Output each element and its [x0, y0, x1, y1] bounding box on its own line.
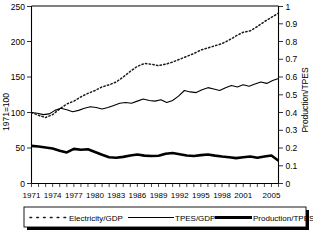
- right-axis-ticks: [279, 7, 284, 184]
- xtick-label: 2001: [234, 191, 252, 200]
- y2tick-label: 1: [286, 2, 291, 12]
- legend-label-tpes-gdp: TPES/GDP: [175, 214, 215, 223]
- xtick-label: 1971: [23, 191, 41, 200]
- line-chart-figure: 0 50 100 150 200 250 1971=100 0 0.1: [0, 0, 313, 233]
- legend-label-electricity-gdp: Electricity/GDP: [69, 214, 123, 223]
- xtick-label: 1992: [171, 191, 189, 200]
- y2-axis-title: Production/TPES: [300, 67, 310, 133]
- y2tick-label: 0.5: [286, 90, 298, 100]
- y2tick-label: 0.3: [286, 125, 298, 135]
- y-axis-title: 1971=100: [1, 93, 11, 131]
- left-axis-ticks: [27, 7, 32, 184]
- right-axis-tick-labels: 0 0.1 0.2 0.3 0.4 0.5 0.6 0.7 0.8 0.9 1: [286, 2, 298, 189]
- y2tick-label: 0.2: [286, 143, 298, 153]
- y2tick-label: 0.1: [286, 161, 298, 171]
- xtick-label: 2005: [263, 191, 281, 200]
- ytick-label: 100: [11, 108, 25, 118]
- xtick-label: 1983: [107, 191, 125, 200]
- y2tick-label: 0.7: [286, 54, 298, 64]
- ytick-label: 200: [11, 37, 25, 47]
- chart-legend: Electricity/GDP TPES/GDP Production/TPES: [24, 207, 313, 230]
- series-line-electricity-gdp: [32, 13, 279, 117]
- left-axis-tick-labels: 0 50 100 150 200 250: [11, 2, 25, 189]
- xtick-label: 1989: [150, 191, 168, 200]
- series-line-tpes-gdp: [32, 78, 279, 114]
- y2tick-label: 0.4: [286, 108, 298, 118]
- xtick-label: 1998: [213, 191, 231, 200]
- ytick-label: 50: [16, 143, 26, 153]
- xtick-label: 1980: [86, 191, 104, 200]
- xtick-label: 1995: [192, 191, 210, 200]
- x-axis-tick-labels: 1971197419771980198319861989199219951998…: [23, 191, 281, 200]
- xtick-label: 1974: [44, 191, 62, 200]
- y2tick-label: 0: [286, 179, 291, 189]
- y2tick-label: 0.6: [286, 72, 298, 82]
- chart-container: 0 50 100 150 200 250 1971=100 0 0.1: [0, 0, 313, 233]
- xtick-label: 1977: [65, 191, 83, 200]
- ytick-label: 0: [20, 179, 25, 189]
- y2tick-label: 0.8: [286, 37, 298, 47]
- series-line-production-tpes: [32, 146, 279, 161]
- ytick-label: 250: [11, 2, 25, 12]
- y2tick-label: 0.9: [286, 19, 298, 29]
- legend-label-production-tpes: Production/TPES: [253, 214, 313, 223]
- xtick-label: 1986: [128, 191, 146, 200]
- ytick-label: 150: [11, 72, 25, 82]
